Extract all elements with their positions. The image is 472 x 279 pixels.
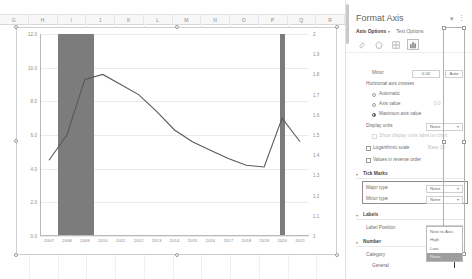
- chart-handle-bottom-center[interactable]: [175, 253, 179, 257]
- minor-value-input[interactable]: 0.02: [412, 70, 440, 78]
- column-header-h[interactable]: H: [29, 15, 58, 24]
- number-category-value: General: [372, 263, 389, 268]
- axis-options-icon[interactable]: [407, 39, 419, 50]
- chart-handle-top-left[interactable]: [14, 25, 18, 29]
- horizontal-axis-crosses-label: Horizontal axis crosses: [366, 81, 414, 86]
- column-header-q[interactable]: Q: [288, 15, 317, 24]
- reverse-order-label: Values in reverse order: [373, 157, 421, 162]
- effects-icon[interactable]: [373, 39, 385, 50]
- chevron-down-icon[interactable]: ▾: [356, 213, 358, 218]
- column-header-j[interactable]: J: [86, 15, 115, 24]
- x-axis-tick-label: 2011: [116, 238, 125, 243]
- y-axis-tick-label: 2.0: [31, 200, 37, 205]
- axis-handle-top-right[interactable]: [462, 26, 466, 30]
- secondary-y-axis-tick-label: 1: [313, 234, 316, 239]
- chevron-down-icon[interactable]: ▾: [450, 15, 454, 23]
- size-properties-icon[interactable]: [390, 39, 402, 50]
- chart-handle-top-right[interactable]: [335, 25, 339, 29]
- chevron-down-icon[interactable]: ▾: [356, 240, 358, 245]
- secondary-axis-selection[interactable]: [443, 27, 465, 255]
- labels-heading: Labels: [363, 212, 378, 217]
- primary-y-axis-line[interactable]: [40, 34, 41, 236]
- chart-object[interactable]: 0.02.04.06.08.010.012.0 11.11.21.31.41.5…: [16, 27, 337, 255]
- y-axis-tick-label: 0.0: [31, 234, 37, 239]
- pane-scrollbar[interactable]: [346, 4, 349, 44]
- x-axis-tick-label: 2010: [98, 238, 108, 243]
- secondary-y-axis-tick-label: 1.3: [313, 173, 319, 178]
- fill-line-icon[interactable]: [356, 39, 368, 50]
- plot-area[interactable]: 0.02.04.06.08.010.012.0 11.11.21.31.41.5…: [40, 34, 309, 236]
- radio-maximum-axis-value-label: Maximum axis value: [379, 111, 421, 116]
- y-axis-tick-label: 4.0: [31, 166, 37, 171]
- column-header-g[interactable]: G: [0, 15, 29, 24]
- log-base-label: Base: [428, 145, 439, 150]
- major-type-label: Major type: [366, 185, 388, 190]
- chart-handle-bottom-right[interactable]: [335, 253, 339, 257]
- show-display-units-label: Show display units label on chart: [379, 133, 447, 138]
- secondary-y-axis-tick-label: 1.5: [313, 133, 319, 138]
- column-header-r[interactable]: R: [316, 15, 345, 24]
- secondary-y-axis-tick-label: 2: [313, 32, 316, 37]
- pane-icon-buttons[interactable]: [356, 39, 419, 50]
- y-axis-tick-label: 6.0: [31, 133, 37, 138]
- column-header-m[interactable]: M: [173, 15, 202, 24]
- dropdown-option-none[interactable]: None: [427, 253, 462, 262]
- radio-maximum-axis-value[interactable]: [372, 113, 376, 117]
- x-axis-tick-label: 2020: [277, 238, 287, 243]
- column-header-o[interactable]: O: [230, 15, 259, 24]
- dropdown-option-next-to-axis[interactable]: Next to Axis: [427, 227, 462, 236]
- secondary-y-axis-tick-label: 1.7: [313, 92, 319, 97]
- number-category-label: Category: [366, 252, 385, 257]
- column-header-k[interactable]: K: [115, 15, 144, 24]
- chart-handle-bottom-left[interactable]: [14, 253, 18, 257]
- tick-marks-heading: Tick Marks: [363, 171, 388, 176]
- chevron-down-icon[interactable]: ▾: [388, 29, 390, 34]
- secondary-y-axis-tick-label: 1.8: [313, 72, 319, 77]
- axis-handle-mid-left[interactable]: [442, 140, 446, 144]
- column-header-n[interactable]: N: [201, 15, 230, 24]
- chart-handle-top-center[interactable]: [175, 25, 179, 29]
- display-units-value: None: [430, 124, 441, 129]
- chart-handle-mid-left[interactable]: [14, 139, 18, 143]
- display-units-label: Display units: [366, 123, 393, 128]
- dropdown-option-low[interactable]: Low: [427, 244, 462, 253]
- tab-text-options[interactable]: Text Options: [396, 29, 423, 34]
- y-axis-tick-label: 8.0: [31, 99, 37, 104]
- label-position-label: Label Position: [366, 225, 395, 230]
- logarithmic-scale-label: Logarithmic scale: [373, 145, 409, 150]
- x-axis-tick-label: 2019: [259, 238, 269, 243]
- radio-automatic[interactable]: [372, 93, 376, 97]
- column-header-l[interactable]: L: [144, 15, 173, 24]
- minor-type-value: None: [430, 197, 441, 202]
- x-axis-tick-label: 2018: [241, 238, 251, 243]
- logarithmic-scale-checkbox[interactable]: [366, 146, 371, 151]
- x-axis-tick-label: 2015: [188, 238, 198, 243]
- gridline: [40, 236, 309, 237]
- dropdown-option-high[interactable]: High: [427, 236, 462, 245]
- close-icon[interactable]: ⋮: [458, 14, 465, 21]
- label-position-dropdown[interactable]: Next to AxisHighLowNone: [426, 226, 463, 262]
- secondary-y-axis-tick-label: 1.6: [313, 112, 319, 117]
- line-series[interactable]: [40, 34, 309, 236]
- reverse-order-checkbox[interactable]: [366, 158, 371, 163]
- secondary-y-axis-tick-label: 1.1: [313, 213, 319, 218]
- axis-handle-mid-right[interactable]: [462, 140, 466, 144]
- secondary-y-axis-tick-label: 1.4: [313, 153, 319, 158]
- tab-axis-options[interactable]: Axis Options▾: [356, 29, 390, 34]
- major-type-value: None: [430, 186, 441, 191]
- y-axis-tick-label: 10.0: [28, 65, 37, 70]
- x-axis-tick-label: 2017: [223, 238, 233, 243]
- x-axis-tick-label: 2014: [170, 238, 180, 243]
- x-axis-line[interactable]: [40, 235, 309, 236]
- axis-value-input[interactable]: 0.0: [434, 101, 441, 106]
- pane-tabs[interactable]: Axis Options▾ Text Options: [356, 29, 423, 34]
- column-header-p[interactable]: P: [259, 15, 288, 24]
- radio-axis-value[interactable]: [372, 103, 376, 107]
- column-header-i[interactable]: I: [58, 15, 87, 24]
- axis-handle-top-left[interactable]: [442, 26, 446, 30]
- radio-axis-value-label: Axis value: [379, 101, 400, 106]
- chevron-down-icon[interactable]: ▾: [356, 172, 358, 177]
- x-axis-tick-label: 2012: [134, 238, 144, 243]
- secondary-y-axis-tick-label: 1.9: [313, 52, 319, 57]
